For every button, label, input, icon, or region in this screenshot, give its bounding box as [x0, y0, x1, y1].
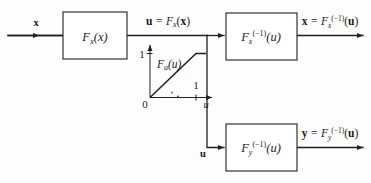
block-fx-label: Fx(x): [81, 30, 107, 46]
diagram-canvas: Fx(x) Fx(−1)(u) Fy(−1)(u) x u=Fx(x) u x=…: [0, 0, 371, 183]
label-y-equals-fy-inverse-of-u: y=Fy(−1)(u): [302, 126, 359, 142]
scan-speck: [177, 96, 179, 98]
plot-x-tick-label: 1: [193, 79, 199, 91]
scan-speck: [171, 92, 173, 94]
wire-branch-to-bottom-box: [207, 36, 224, 148]
plot-origin-label: 0: [142, 98, 148, 110]
label-u-equals-fx-of-x: u=Fx(x): [146, 15, 190, 29]
plot-x-axis-label: u: [203, 99, 208, 110]
inset-cdf-plot: 1 1 0 u Fu(u): [139, 45, 212, 110]
label-input-x: x: [33, 17, 39, 28]
label-x-equals-fx-inverse-of-u: x=Fx(−1)(u): [302, 14, 359, 30]
block-diagram: Fx(x) Fx(−1)(u) Fy(−1)(u) x u=Fx(x) u x=…: [0, 0, 371, 183]
plot-y-tick-label: 1: [139, 48, 145, 60]
label-branch-u: u: [200, 148, 206, 159]
